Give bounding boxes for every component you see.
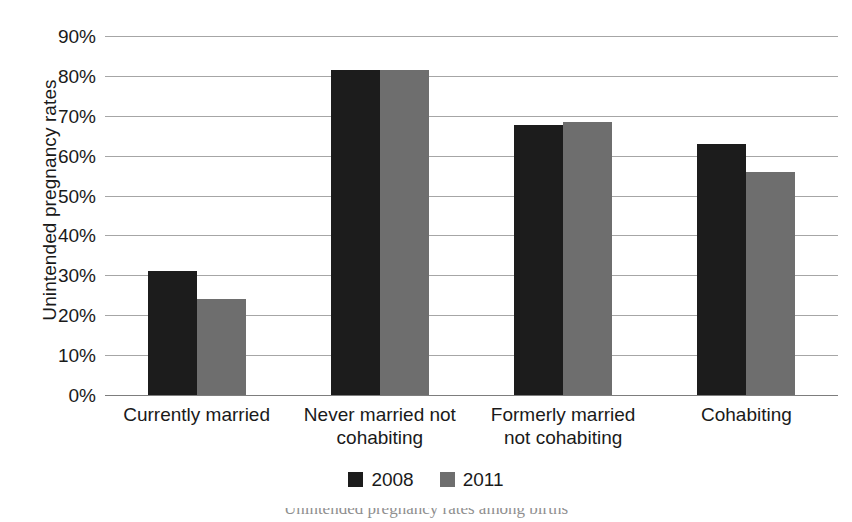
- bar-2008-group-3: [514, 125, 563, 395]
- y-axis-tick-label: 90%: [16, 27, 96, 46]
- y-axis-tick-label: 10%: [16, 346, 96, 365]
- x-axis-category-labels: Currently marriedNever married notcohabi…: [105, 403, 838, 457]
- bar-2011-group-2: [380, 70, 429, 395]
- gridline: [105, 36, 838, 37]
- y-axis-tick-label: 40%: [16, 226, 96, 245]
- bar-2008-group-4: [697, 144, 746, 395]
- legend-label: 2011: [463, 470, 504, 489]
- figure-caption-text: Unintended pregnancy rates among births: [0, 508, 852, 519]
- x-axis-label-line: Cohabiting: [655, 403, 838, 426]
- bar-chart: Unintended pregnancy rates 90%80%70%60%5…: [0, 0, 852, 522]
- y-axis-tick-label: 70%: [16, 107, 96, 126]
- x-axis-label-1: Currently married: [105, 403, 288, 426]
- y-axis-tick-labels: 90%80%70%60%50%40%30%20%10%0%: [10, 36, 96, 395]
- x-axis-label-2: Never married notcohabiting: [288, 403, 471, 449]
- y-axis-tick-label: 20%: [16, 306, 96, 325]
- gridline: [105, 76, 838, 77]
- x-axis-label-4: Cohabiting: [655, 403, 838, 426]
- bar-2008-group-1: [148, 271, 197, 395]
- axis-baseline: [105, 395, 838, 396]
- figure-caption-cutoff: Unintended pregnancy rates among births: [0, 508, 852, 522]
- legend-swatch-icon: [348, 472, 363, 487]
- chart-legend: 20082011: [0, 470, 852, 489]
- bar-2011-group-4: [746, 172, 795, 395]
- y-axis-tick-label: 30%: [16, 266, 96, 285]
- x-axis-label-line: Never married not: [288, 403, 471, 426]
- bar-2008-group-2: [331, 70, 380, 395]
- bar-2011-group-3: [563, 122, 612, 395]
- y-axis-tick-label: 0%: [16, 386, 96, 405]
- gridline: [105, 116, 838, 117]
- x-axis-label-line: Formerly married: [472, 403, 655, 426]
- legend-item-2011: 2011: [440, 470, 504, 489]
- y-axis-tick-label: 60%: [16, 147, 96, 166]
- x-axis-label-line: cohabiting: [288, 426, 471, 449]
- x-axis-label-line: Currently married: [105, 403, 288, 426]
- x-axis-label-3: Formerly marriednot cohabiting: [472, 403, 655, 449]
- bar-2011-group-1: [197, 299, 246, 395]
- y-axis-tick-label: 80%: [16, 67, 96, 86]
- plot-area: [105, 36, 838, 395]
- y-axis-tick-label: 50%: [16, 187, 96, 206]
- x-axis-label-line: not cohabiting: [472, 426, 655, 449]
- legend-label: 2008: [371, 470, 413, 489]
- legend-item-2008: 2008: [348, 470, 413, 489]
- legend-swatch-icon: [440, 472, 455, 487]
